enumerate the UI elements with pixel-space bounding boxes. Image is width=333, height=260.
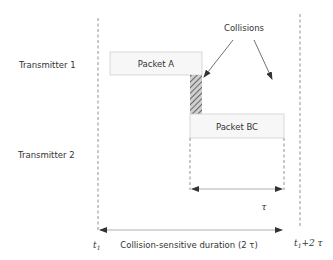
collision-region — [190, 75, 202, 114]
packet-a-label: Packet A — [138, 59, 175, 69]
collision-arrow-1 — [204, 40, 233, 77]
transmitter-1-label: Transmitter 1 — [18, 60, 76, 70]
tau-label: τ — [262, 202, 268, 212]
collision-arrow-2 — [254, 40, 272, 79]
start-time-label: t1 — [93, 240, 100, 251]
duration-label: Collision-sensitive duration (2 τ) — [120, 240, 258, 250]
packet-bc-label: Packet BC — [216, 122, 258, 132]
collision-diagram: Transmitter 1 Transmitter 2 Packet A Pac… — [0, 0, 333, 260]
transmitter-2-label: Transmitter 2 — [17, 150, 75, 160]
end-time-label: t1+2 τ — [294, 238, 324, 249]
collisions-label: Collisions — [224, 23, 265, 33]
